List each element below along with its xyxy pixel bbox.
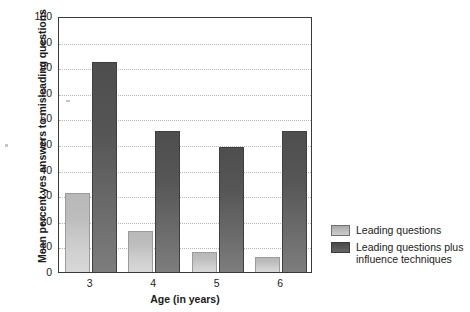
light-gray-swatch-icon	[331, 225, 350, 236]
scan-speck	[66, 100, 70, 102]
y-axis-tick-label: 90	[26, 37, 52, 48]
x-axis-tick-label: 6	[260, 277, 300, 289]
legend-item-leading-questions: Leading questions	[331, 224, 469, 236]
y-axis-tick-label: 60	[26, 113, 52, 124]
y-axis-tick-label: 100	[26, 11, 52, 22]
y-axis-tick-label: 70	[26, 88, 52, 99]
x-axis-tick-label: 5	[197, 277, 237, 289]
x-axis-tick-label: 3	[70, 277, 110, 289]
bar-3-series-2	[92, 62, 117, 272]
y-axis-tick-label: 20	[26, 216, 52, 227]
plot-inner	[59, 18, 311, 272]
bar-6-series-1	[255, 257, 280, 272]
bar-4-series-1	[128, 231, 153, 272]
legend-item-leading-questions-plus-influence: Leading questions plus influence techniq…	[331, 241, 469, 265]
y-axis-tick-label: 0	[26, 267, 52, 278]
legend-label: Leading questions plus influence techniq…	[356, 241, 463, 265]
bar-5-series-1	[192, 252, 217, 272]
bar-6-series-2	[282, 131, 307, 272]
scan-speck	[5, 144, 8, 147]
plot-area	[58, 17, 312, 273]
y-axis-tick-label: 50	[26, 139, 52, 150]
bar-4-series-2	[155, 131, 180, 272]
legend-label: Leading questions	[356, 224, 441, 236]
legend: Leading questions Leading questions plus…	[331, 224, 469, 270]
bar-3-series-1	[65, 193, 90, 272]
dark-gray-swatch-icon	[331, 242, 350, 253]
bar-5-series-2	[219, 147, 244, 272]
y-axis-tick-label: 80	[26, 62, 52, 73]
y-axis-tick-label: 40	[26, 165, 52, 176]
bar-chart: Mean percent yes answers to misleading q…	[0, 0, 470, 312]
x-axis-title: Age (in years)	[58, 293, 312, 305]
x-axis-tick-label: 4	[133, 277, 173, 289]
gridline	[59, 44, 311, 45]
y-axis-tick-label: 30	[26, 190, 52, 201]
y-axis-tick-label: 10	[26, 241, 52, 252]
